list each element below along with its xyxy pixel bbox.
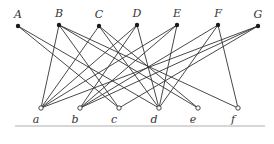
top-node-label-B: B: [54, 7, 63, 20]
top-node-label-C: C: [95, 8, 104, 21]
bottom-node-label-d: d: [150, 113, 157, 126]
edge-G-b: [80, 26, 258, 108]
top-node-A: [16, 24, 20, 28]
bottom-node-e: [196, 106, 200, 110]
top-node-D: [135, 23, 139, 27]
bottom-node-label-c: c: [111, 113, 117, 126]
top-node-label-E: E: [172, 7, 181, 20]
top-node-E: [175, 23, 179, 27]
top-node-label-D: D: [132, 7, 142, 20]
bottom-node-label-a: a: [33, 113, 40, 126]
bottom-node-c: [117, 106, 121, 110]
top-node-B: [57, 23, 61, 27]
bottom-node-d: [157, 106, 161, 110]
top-node-G: [256, 24, 260, 28]
top-nodes-group: ABCDEFG: [13, 7, 263, 28]
bottom-node-label-f: f: [230, 113, 237, 126]
edge-F-b: [80, 25, 218, 108]
bottom-node-a: [39, 106, 43, 110]
bottom-node-label-b: b: [71, 113, 78, 126]
bottom-node-b: [78, 106, 82, 110]
edge-G-c: [119, 26, 258, 108]
bottom-nodes-group: abcdef: [33, 106, 240, 126]
top-node-label-F: F: [213, 7, 222, 20]
edges-group: [18, 25, 258, 108]
bottom-node-f: [236, 106, 240, 110]
edge-E-a: [41, 25, 177, 108]
bipartite-graph-diagram: ABCDEFG abcdef: [0, 0, 274, 144]
top-node-label-G: G: [254, 8, 263, 21]
top-node-F: [216, 23, 220, 27]
top-node-label-A: A: [13, 8, 22, 21]
top-node-C: [97, 24, 101, 28]
bottom-node-label-e: e: [190, 113, 197, 126]
